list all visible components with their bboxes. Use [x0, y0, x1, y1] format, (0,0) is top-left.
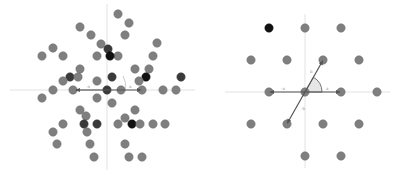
left-label-neg: -a	[86, 84, 90, 89]
left-lattice-point	[149, 52, 157, 60]
left-lattice-point	[49, 44, 57, 52]
left-lattice-point	[108, 99, 116, 107]
right-lattice-point	[265, 24, 273, 32]
left-lattice-point	[161, 120, 169, 128]
left-lattice-panel: -a a	[10, 4, 195, 170]
right-label-b: b	[310, 69, 313, 74]
right-lattice-point	[373, 88, 381, 96]
right-label-a: a	[326, 86, 329, 91]
left-lattice-point	[87, 31, 95, 39]
left-lattice-point	[74, 73, 82, 81]
left-lattice-point	[93, 77, 101, 85]
right-lattice-panel: a -a b -b	[225, 14, 390, 168]
right-label-neg-a: -a	[281, 86, 285, 91]
left-lattice-point	[80, 120, 88, 128]
left-lattice-point	[153, 39, 161, 47]
right-lattice-point	[319, 120, 327, 128]
right-lattice-point	[301, 24, 309, 32]
left-lattice-point	[90, 153, 98, 161]
left-lattice-point	[97, 40, 105, 48]
left-lattice-point	[76, 23, 84, 31]
left-lattice-point	[125, 153, 133, 161]
right-lattice-point	[355, 120, 363, 128]
left-lattice-point	[121, 31, 129, 39]
right-lattice-point	[337, 152, 345, 160]
right-label-neg-b: -b	[301, 106, 305, 111]
right-lattice-point	[355, 56, 363, 64]
left-lattice-point	[172, 86, 180, 94]
right-lattice-point	[301, 152, 309, 160]
right-lattice-point	[337, 24, 345, 32]
left-lattice-point	[38, 52, 46, 60]
left-lattice-point	[149, 120, 157, 128]
left-lattice-point	[106, 52, 114, 60]
left-lattice-point	[93, 94, 101, 102]
left-points-group	[38, 10, 185, 161]
left-lattice-point	[121, 140, 129, 148]
left-lattice-point	[177, 73, 185, 81]
left-lattice-point	[59, 52, 67, 60]
left-lattice-point	[49, 86, 57, 94]
left-lattice-point	[128, 120, 136, 128]
lattice-diagram: -a a a -a b -b	[0, 0, 394, 175]
left-lattice-point	[121, 114, 129, 122]
left-label-pos: a	[129, 84, 132, 89]
left-lattice-point	[53, 140, 61, 148]
left-lattice-point	[131, 65, 139, 73]
left-lattice-point	[114, 52, 122, 60]
right-lattice-point	[247, 120, 255, 128]
left-lattice-point	[136, 120, 144, 128]
left-lattice-point	[93, 52, 101, 60]
left-lattice-point	[76, 65, 84, 73]
left-lattice-point	[114, 10, 122, 18]
right-lattice-point	[283, 56, 291, 64]
left-lattice-point	[131, 106, 139, 114]
left-lattice-point	[38, 94, 46, 102]
left-lattice-point	[82, 112, 90, 120]
left-lattice-point	[125, 19, 133, 27]
left-lattice-point	[93, 120, 101, 128]
left-lattice-point	[108, 73, 116, 81]
left-lattice-point	[138, 153, 146, 161]
left-lattice-point	[135, 77, 143, 85]
left-lattice-point	[83, 128, 91, 136]
left-lattice-point	[159, 86, 167, 94]
left-lattice-point	[145, 65, 153, 73]
left-lattice-point	[59, 120, 67, 128]
left-lattice-point	[86, 140, 94, 148]
left-lattice-point	[59, 77, 67, 85]
right-lattice-point	[247, 56, 255, 64]
left-lattice-point	[49, 128, 57, 136]
left-lattice-point	[114, 120, 122, 128]
